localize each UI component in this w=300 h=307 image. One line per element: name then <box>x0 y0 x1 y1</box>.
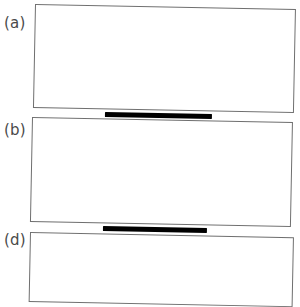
separator-bar-b-d <box>103 226 207 233</box>
panel-label-d: (d) <box>4 232 26 248</box>
panel-b-frame <box>30 117 293 227</box>
panel-label-a: (a) <box>4 15 26 31</box>
panel-label-b: (b) <box>4 122 26 138</box>
panel-a-frame <box>33 4 296 113</box>
panel-d-frame <box>29 232 294 307</box>
